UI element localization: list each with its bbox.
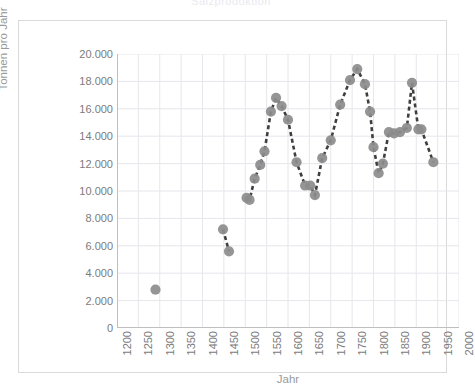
- x-tick-label: 1900: [420, 331, 432, 355]
- data-point: [326, 135, 336, 145]
- x-axis-title: Jahr: [117, 373, 459, 385]
- y-tick-label: 16.000: [57, 103, 113, 115]
- gridlines: [117, 54, 459, 328]
- data-point: [310, 190, 320, 200]
- x-tick-label: 1500: [249, 331, 261, 355]
- x-axis-tick-labels: 1200125013001350140014501500155016001650…: [117, 331, 459, 377]
- data-point: [276, 101, 286, 111]
- data-connector-lines: [223, 69, 433, 251]
- x-tick-label: 1950: [442, 331, 454, 355]
- data-point: [365, 106, 375, 116]
- data-point: [244, 195, 254, 205]
- y-tick-label: 6.000: [57, 240, 113, 252]
- clipped-title: Salzproduktion: [0, 0, 462, 7]
- y-tick-label: 14.000: [57, 130, 113, 142]
- y-tick-label: 2.000: [57, 295, 113, 307]
- data-point: [250, 174, 260, 184]
- chart-frame: 02.0004.0006.0008.00010.00012.00014.0001…: [18, 20, 447, 373]
- data-point: [360, 79, 370, 89]
- data-point: [305, 180, 315, 190]
- data-point: [368, 142, 378, 152]
- data-point: [255, 160, 265, 170]
- y-axis-title: Tonnen pro Jahr: [0, 0, 9, 139]
- y-tick-label: 20.000: [57, 48, 113, 60]
- y-tick-label: 0: [57, 322, 113, 334]
- data-point: [378, 159, 388, 169]
- data-point: [402, 123, 412, 133]
- x-tick-label: 1300: [164, 331, 176, 355]
- x-tick-label: 1400: [207, 331, 219, 355]
- data-point: [283, 115, 293, 125]
- x-tick-label: 1550: [271, 331, 283, 355]
- plot-area: [117, 54, 459, 328]
- data-point: [266, 106, 276, 116]
- data-point: [218, 224, 228, 234]
- data-point: [259, 146, 269, 156]
- scatter-plot-svg: [117, 54, 459, 328]
- x-tick-label: 1250: [142, 331, 154, 355]
- data-point: [345, 75, 355, 85]
- x-tick-label: 1750: [356, 331, 368, 355]
- data-point: [428, 157, 438, 167]
- data-point: [352, 64, 362, 74]
- data-point: [335, 100, 345, 110]
- x-tick-label: 1700: [335, 331, 347, 355]
- y-tick-label: 12.000: [57, 158, 113, 170]
- x-tick-label: 1200: [121, 331, 133, 355]
- x-tick-label: 1650: [313, 331, 325, 355]
- data-point: [224, 246, 234, 256]
- x-tick-label: 1450: [228, 331, 240, 355]
- y-axis-tick-labels: 02.0004.0006.0008.00010.00012.00014.0001…: [51, 54, 113, 328]
- data-point: [317, 153, 327, 163]
- x-tick-label: 2000: [463, 331, 475, 355]
- x-tick-label: 1350: [185, 331, 197, 355]
- data-point: [407, 78, 417, 88]
- y-tick-label: 8.000: [57, 212, 113, 224]
- data-point: [291, 157, 301, 167]
- y-tick-label: 10.000: [57, 185, 113, 197]
- data-point: [150, 285, 160, 295]
- y-tick-label: 18.000: [57, 75, 113, 87]
- y-tick-label: 4.000: [57, 267, 113, 279]
- x-tick-label: 1800: [378, 331, 390, 355]
- data-point: [374, 168, 384, 178]
- x-tick-label: 1600: [292, 331, 304, 355]
- data-point: [416, 124, 426, 134]
- x-tick-label: 1850: [399, 331, 411, 355]
